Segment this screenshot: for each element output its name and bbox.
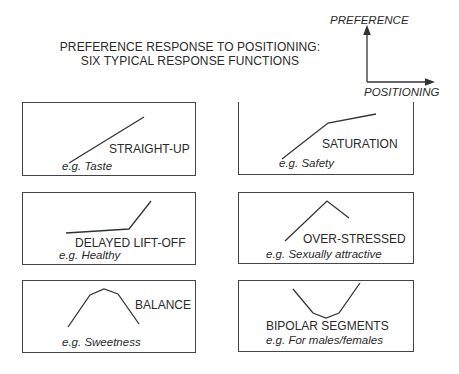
- y-axis-label: PREFERENCE: [330, 14, 409, 26]
- x-axis-label: POSITIONING: [364, 86, 439, 98]
- panel-example: e.g. Healthy: [59, 249, 120, 261]
- panel-balance: BALANCE e.g. Sweetness: [22, 280, 196, 353]
- panel-name: STRAIGHT-UP: [109, 142, 190, 156]
- panel-name: BALANCE: [135, 298, 191, 312]
- panel-name: SATURATION: [322, 137, 398, 151]
- panel-delayed-lift-off: DELAYED LIFT-OFF e.g. Healthy: [22, 192, 196, 265]
- panel-saturation: SATURATION e.g. Safety: [238, 102, 414, 175]
- panel-name: BIPOLAR SEGMENTS: [266, 319, 389, 333]
- panel-example: e.g. For males/females: [266, 334, 383, 346]
- panel-example: e.g. Taste: [62, 160, 112, 172]
- panel-example: e.g. Safety: [279, 157, 334, 169]
- panel-name: DELAYED LIFT-OFF: [75, 236, 185, 250]
- panel-example: e.g. Sexually attractive: [266, 248, 382, 260]
- panel-example: e.g. Sweetness: [62, 336, 141, 348]
- panel-bipolar-segments: BIPOLAR SEGMENTS e.g. For males/females: [238, 280, 414, 352]
- panel-over-stressed: OVER-STRESSED e.g. Sexually attractive: [238, 192, 414, 264]
- panel-name: OVER-STRESSED: [303, 232, 406, 246]
- panel-straight-up: STRAIGHT-UP e.g. Taste: [22, 102, 196, 176]
